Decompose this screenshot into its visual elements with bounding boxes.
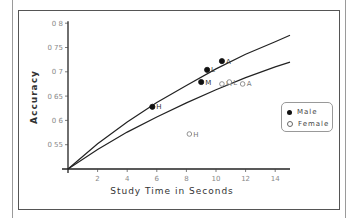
x-tick-label: 4 [125, 175, 130, 183]
filled-circle-icon [287, 110, 292, 115]
data-point [220, 82, 225, 87]
data-point [240, 82, 245, 87]
data-point [187, 132, 192, 137]
point-label: H [156, 103, 161, 111]
fit-curve [68, 35, 290, 169]
x-axis-label: Study Time in Seconds [110, 186, 234, 196]
point-label: L [233, 79, 237, 87]
data-point [219, 59, 224, 64]
x-tick-label: 10 [212, 175, 221, 183]
point-label: A [247, 80, 252, 88]
x-tick-label: 8 [184, 175, 188, 183]
y-tick-label: 0 8 [52, 20, 63, 28]
point-label: M [205, 79, 211, 87]
y-tick-label: 0 55 [47, 141, 63, 149]
data-point [205, 67, 210, 72]
open-circle-icon [287, 121, 293, 127]
fit-curve [68, 62, 290, 169]
legend-item-male: Male [287, 106, 332, 118]
y-tick-label: 0 75 [47, 44, 63, 52]
fit-curves [68, 35, 290, 169]
x-tick-label: 6 [155, 175, 160, 183]
point-label: A [226, 58, 231, 66]
legend-item-female: Female [287, 118, 332, 130]
y-tick-label: 0 7 [52, 68, 63, 76]
point-label: L [211, 66, 215, 74]
data-point [199, 79, 204, 84]
y-tick-label: 0 6 [52, 117, 64, 125]
data-point [227, 80, 232, 85]
x-tick-label: 14 [271, 175, 280, 183]
legend: Male Female [281, 102, 333, 132]
data-point [150, 104, 155, 109]
y-axis-label: Accuracy [29, 70, 39, 124]
x-tick-label: 12 [241, 175, 250, 183]
x-tick-label: 2 [95, 175, 99, 183]
point-label: H [193, 131, 198, 139]
y-tick-label: 0 65 [47, 93, 63, 101]
